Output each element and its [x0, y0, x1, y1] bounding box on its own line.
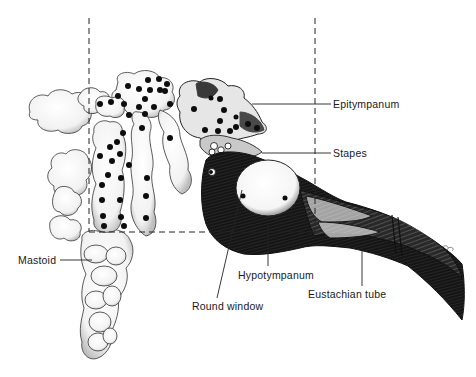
- label-epitympanum: Epitympanum: [333, 98, 399, 110]
- label-mastoid: Mastoid: [18, 254, 56, 266]
- label-stapes: Stapes: [333, 147, 367, 159]
- label-round-window: Round window: [192, 300, 263, 312]
- anatomy-illustration: [0, 0, 476, 377]
- cavity-openings: [209, 169, 216, 176]
- mastoid-tip-cells: [80, 229, 133, 359]
- label-hypotympanum: Hypotympanum: [238, 269, 314, 281]
- middle-ear-anatomy-figure: Epitympanum Stapes Mastoid Hypotympanum …: [0, 0, 476, 377]
- promontory: [236, 160, 300, 216]
- label-eustachian-tube: Eustachian tube: [308, 288, 386, 300]
